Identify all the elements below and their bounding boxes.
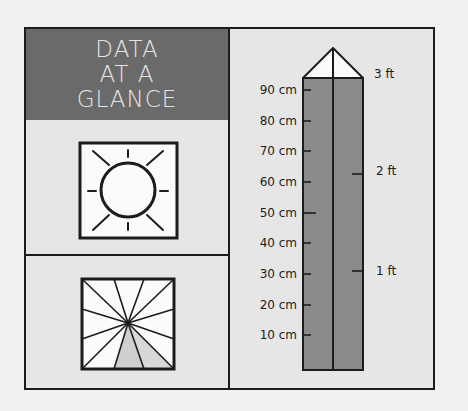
ft-labels: 3 ft 2 ft 1 ft bbox=[374, 67, 396, 278]
label-30cm: 30 cm bbox=[260, 267, 297, 281]
title-line-3: GLANCE bbox=[77, 87, 178, 112]
label-60cm: 60 cm bbox=[260, 175, 297, 189]
label-90cm: 90 cm bbox=[260, 83, 297, 97]
height-ruler-chart: 90 cm 80 cm 70 cm 60 cm 50 cm 40 cm 30 c… bbox=[230, 29, 433, 388]
infographic-frame: DATA AT A GLANCE bbox=[24, 27, 435, 390]
fan-section bbox=[26, 256, 228, 388]
label-2ft: 2 ft bbox=[376, 164, 396, 178]
cm-labels: 90 cm 80 cm 70 cm 60 cm 50 cm 40 cm 30 c… bbox=[260, 83, 297, 342]
left-column: DATA AT A GLANCE bbox=[26, 29, 230, 388]
title-banner: DATA AT A GLANCE bbox=[26, 29, 228, 120]
label-80cm: 80 cm bbox=[260, 114, 297, 128]
label-50cm: 50 cm bbox=[260, 206, 297, 220]
title-line-1: DATA bbox=[95, 37, 158, 62]
label-3ft: 3 ft bbox=[374, 67, 394, 81]
label-40cm: 40 cm bbox=[260, 236, 297, 250]
label-20cm: 20 cm bbox=[260, 298, 297, 312]
title-line-2: AT A bbox=[99, 62, 154, 87]
sun-icon bbox=[26, 120, 230, 256]
height-chart-panel: 90 cm 80 cm 70 cm 60 cm 50 cm 40 cm 30 c… bbox=[230, 29, 433, 388]
sun-rays-fan-icon bbox=[26, 256, 230, 388]
label-1ft: 1 ft bbox=[376, 264, 396, 278]
label-10cm: 10 cm bbox=[260, 328, 297, 342]
label-70cm: 70 cm bbox=[260, 144, 297, 158]
sun-section bbox=[26, 120, 228, 256]
